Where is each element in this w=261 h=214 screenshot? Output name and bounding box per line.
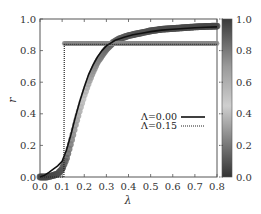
y-tick-label: 1.0: [20, 14, 36, 25]
y-tick-label: 0.8: [20, 45, 36, 56]
legend: Λ=0.00 Λ=0.15: [140, 111, 205, 131]
colorbar-tick-label: 0.4: [236, 108, 252, 119]
legend-label-1: Λ=0.15: [140, 120, 177, 131]
y-tick-label: 0.2: [20, 140, 36, 151]
x-tick-label: 0.8: [209, 181, 225, 192]
x-axis-label: λ: [124, 194, 132, 207]
y-tick-label: 0.4: [20, 108, 36, 119]
colorbar-tick-label: 0.8: [236, 45, 252, 56]
x-tick-label: 0.5: [143, 181, 159, 192]
colorbar-tick-label: 0.2: [236, 140, 252, 151]
x-tick-label: 0.7: [187, 181, 203, 192]
y-tick-label: 0.6: [20, 77, 36, 88]
y-axis-label: r: [6, 97, 19, 103]
colorbar-tick-label: 1.0: [236, 14, 252, 25]
x-tick-label: 0.3: [98, 181, 114, 192]
x-tick-label: 0.4: [121, 181, 137, 192]
chart: 0.00.10.20.30.40.50.60.70.8 0.00.20.40.6…: [0, 0, 261, 214]
x-tick-label: 0.2: [76, 181, 92, 192]
colorbar: 0.00.20.40.60.81.0: [219, 14, 252, 183]
colorbar-tick-label: 0.6: [236, 77, 252, 88]
y-tick-label: 0.0: [20, 172, 36, 183]
colorbar-tick-label: 0.0: [236, 172, 252, 183]
x-tick-label: 0.6: [165, 181, 181, 192]
x-tick-label: 0.0: [32, 181, 48, 192]
x-tick-label: 0.1: [54, 181, 70, 192]
